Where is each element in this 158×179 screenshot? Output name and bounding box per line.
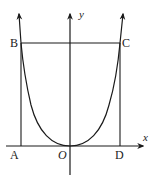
- point-label-b: B: [10, 36, 18, 50]
- origin-label: O: [58, 148, 67, 162]
- y-axis-label: y: [78, 8, 84, 20]
- point-label-d: D: [115, 148, 124, 162]
- curve-right-branch: [70, 14, 123, 146]
- curve-left-branch: [19, 14, 70, 146]
- point-label-a: A: [10, 148, 19, 162]
- coordinate-diagram: B C A D O x y: [0, 0, 158, 179]
- x-axis-label: x: [142, 131, 148, 143]
- point-label-c: C: [122, 36, 130, 50]
